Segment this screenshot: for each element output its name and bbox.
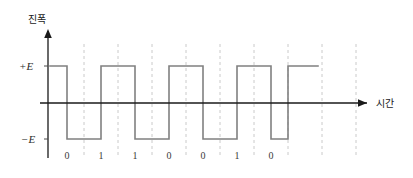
bit-label: 0 [65,150,70,161]
waveform-plot: 진폭 시간 +E −E 0 1 1 0 0 1 0 [0,0,413,178]
y-axis-arrowhead-icon [44,29,52,38]
bit-label: 0 [269,150,274,161]
bit-label: 0 [201,150,206,161]
bit-label: 1 [99,150,104,161]
bit-label: 1 [133,150,138,161]
x-axis-label: 시간 [376,98,394,109]
level-label-negative: −E [21,133,35,145]
bit-label: 1 [235,150,240,161]
x-axis-arrowhead-icon [358,99,367,107]
y-axis-label: 진폭 [28,14,46,25]
bit-labels: 0 1 1 0 0 1 0 [65,150,274,161]
level-label-positive: +E [19,60,33,72]
grid-lines [84,44,356,158]
manchester-encoding-figure: 진폭 시간 +E −E 0 1 1 0 0 1 0 [0,0,413,178]
bit-label: 0 [167,150,172,161]
